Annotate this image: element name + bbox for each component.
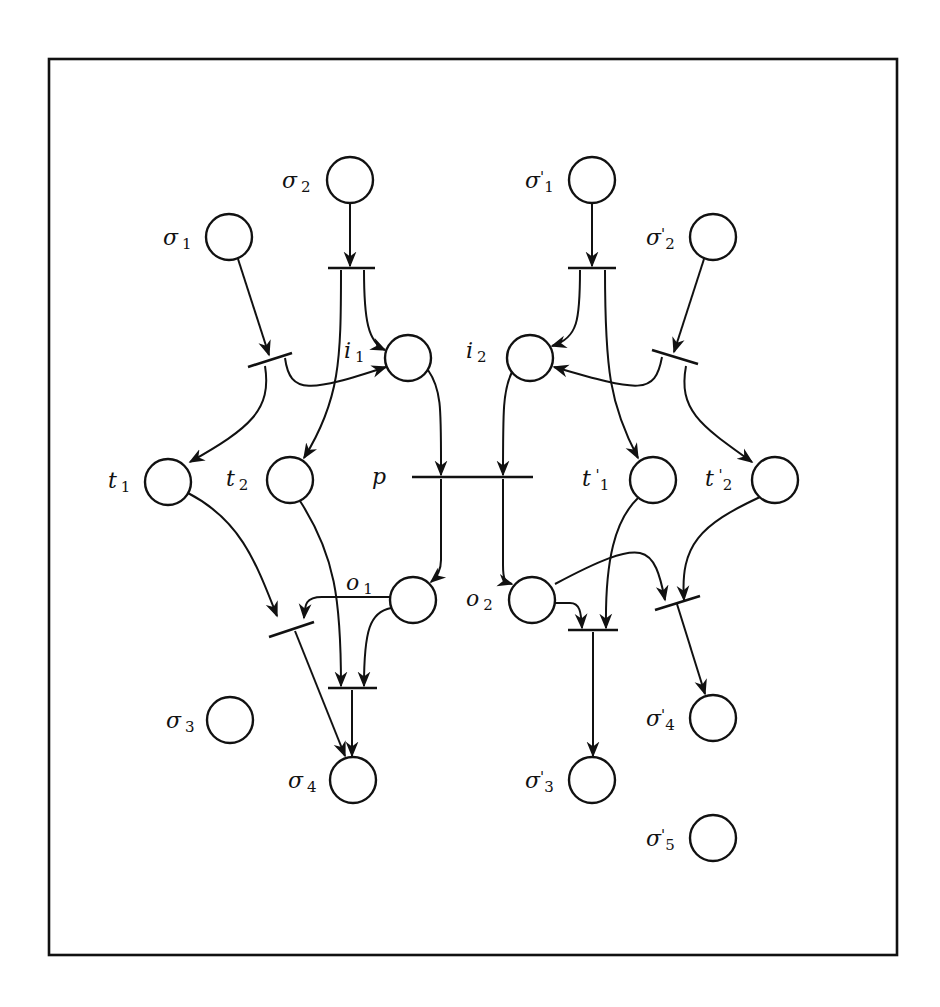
place-t_p1: t '1 bbox=[582, 457, 676, 503]
place-label: σ3 bbox=[166, 708, 195, 736]
arc-ta-to-i1 bbox=[364, 270, 385, 350]
place-circle bbox=[385, 335, 431, 381]
arc-sigma1-to-tb bbox=[238, 259, 269, 355]
place-i2: i2 bbox=[466, 335, 553, 381]
place-label: σ1 bbox=[163, 225, 192, 253]
place-label: σ4 bbox=[288, 768, 317, 796]
arc-tb-to-i1 bbox=[285, 358, 386, 386]
place-circle bbox=[327, 157, 373, 203]
arc-t1-to-tc bbox=[188, 493, 277, 616]
place-circle bbox=[267, 457, 313, 503]
place-sigma_p2: σ'2 bbox=[646, 214, 736, 260]
arc-i2-to-p bbox=[503, 372, 512, 475]
place-sigma_p3: σ'3 bbox=[525, 757, 615, 803]
arc-tap-to-tp1 bbox=[605, 270, 638, 458]
arc-tp1-to-tcp bbox=[606, 498, 638, 628]
arc-tdp-to-sigmap4 bbox=[677, 604, 705, 694]
place-circle bbox=[207, 697, 253, 743]
place-sigma4: σ4 bbox=[288, 757, 376, 803]
place-circle bbox=[630, 457, 676, 503]
place-circle bbox=[752, 457, 798, 503]
place-label: t '1 bbox=[582, 466, 609, 494]
place-label: o1 bbox=[346, 570, 373, 598]
place-circle bbox=[509, 577, 555, 623]
place-sigma_p4: σ'4 bbox=[646, 695, 736, 741]
place-sigma_p5: σ'5 bbox=[646, 815, 736, 861]
place-label: σ'5 bbox=[646, 826, 675, 854]
place-label: t2 bbox=[226, 466, 248, 494]
arc-p-to-o2 bbox=[503, 479, 512, 584]
arc-tap-to-i2 bbox=[552, 270, 580, 346]
place-label: t1 bbox=[108, 468, 130, 496]
arc-tp2-to-tdp bbox=[684, 497, 760, 600]
place-label: σ'4 bbox=[646, 706, 675, 734]
arc-tb-to-t1 bbox=[190, 366, 266, 462]
place-circle bbox=[690, 815, 736, 861]
transition-tc bbox=[269, 622, 314, 637]
place-circle bbox=[145, 459, 191, 505]
place-t_p2: t '2 bbox=[705, 457, 798, 503]
diagram-frame bbox=[49, 59, 897, 955]
arc-tc-to-sigma4 bbox=[295, 631, 345, 756]
place-t1: t1 bbox=[108, 459, 191, 505]
place-circle bbox=[569, 157, 615, 203]
petri-net-diagram: σ2σ1i1t1t2o1σ3σ4σ'1σ'2i2t '1t '2o2σ'4σ'3… bbox=[0, 0, 940, 1007]
transition-label-p: p bbox=[372, 464, 386, 489]
place-circle bbox=[690, 214, 736, 260]
place-circle bbox=[330, 757, 376, 803]
place-circle bbox=[206, 214, 252, 260]
place-label: t '2 bbox=[705, 466, 732, 494]
place-sigma2: σ2 bbox=[282, 157, 373, 203]
arc-tbp-to-tp2 bbox=[684, 366, 752, 462]
arc-i1-to-p bbox=[428, 370, 441, 475]
arc-ta-to-t2 bbox=[304, 270, 341, 458]
place-label: o2 bbox=[466, 586, 493, 614]
place-t2: t2 bbox=[226, 457, 313, 503]
place-circle bbox=[690, 695, 736, 741]
place-label: σ'2 bbox=[646, 225, 675, 253]
place-circle bbox=[390, 577, 436, 623]
place-i1: i1 bbox=[344, 335, 431, 381]
transition-labels-layer: p bbox=[372, 464, 386, 489]
place-circle bbox=[507, 335, 553, 381]
arc-sigmap2-to-tbp bbox=[674, 259, 704, 352]
place-sigma1: σ1 bbox=[163, 214, 252, 260]
arc-o1-to-td bbox=[364, 608, 391, 686]
place-label: σ'3 bbox=[525, 768, 554, 796]
place-sigma3: σ3 bbox=[166, 697, 253, 743]
place-sigma_p1: σ'1 bbox=[525, 157, 615, 203]
place-label: i2 bbox=[466, 338, 487, 366]
place-circle bbox=[569, 757, 615, 803]
arc-p-to-o1 bbox=[431, 479, 441, 582]
place-label: i1 bbox=[344, 338, 365, 366]
arc-o2-to-tcp bbox=[555, 603, 582, 628]
place-label: σ'1 bbox=[525, 168, 554, 196]
place-label: σ2 bbox=[282, 168, 311, 196]
